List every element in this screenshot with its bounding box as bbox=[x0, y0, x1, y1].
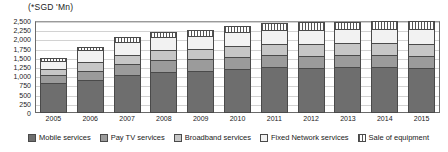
x-axis-tick-label: 2015 bbox=[414, 115, 430, 123]
bar-stack[interactable] bbox=[150, 32, 177, 113]
bar-segment[interactable] bbox=[408, 56, 435, 67]
bar-segment[interactable] bbox=[298, 22, 325, 29]
legend-item[interactable]: Mobile services bbox=[28, 134, 91, 142]
x-axis-tick-label: 2013 bbox=[340, 115, 356, 123]
y-axis-tick-label: 1,000 bbox=[13, 73, 31, 80]
bar-segment[interactable] bbox=[77, 62, 104, 70]
bar-stack[interactable] bbox=[77, 47, 104, 113]
legend-item-label: Sale of equipment bbox=[369, 134, 429, 142]
bar-segment[interactable] bbox=[224, 32, 251, 46]
x-axis-tick-label: 2008 bbox=[156, 115, 172, 123]
bar-segment[interactable] bbox=[187, 30, 214, 36]
legend-item[interactable]: Broadband services bbox=[174, 134, 251, 142]
y-axis-tick-label: 0 bbox=[27, 110, 31, 117]
bar-segment[interactable] bbox=[150, 37, 177, 50]
chart-legend: Mobile servicesPay TV servicesBroadband … bbox=[28, 131, 444, 145]
bar-stack[interactable] bbox=[261, 23, 288, 113]
bar-segment[interactable] bbox=[114, 42, 141, 55]
bar-segment[interactable] bbox=[114, 75, 141, 113]
bar-segment[interactable] bbox=[187, 59, 214, 71]
bar-stack[interactable] bbox=[298, 22, 325, 113]
bar-stack[interactable] bbox=[224, 26, 251, 113]
bar-segment[interactable] bbox=[261, 44, 288, 55]
bar-segment[interactable] bbox=[224, 26, 251, 32]
bar-stack[interactable] bbox=[187, 30, 214, 113]
y-axis-tick-label: 1,250 bbox=[13, 64, 31, 71]
bar-segment[interactable] bbox=[371, 67, 398, 113]
bar-segment[interactable] bbox=[150, 32, 177, 37]
y-axis-tick-label: 1,500 bbox=[13, 54, 31, 61]
legend-item[interactable]: Pay TV services bbox=[100, 134, 165, 142]
bar-segment[interactable] bbox=[40, 61, 67, 69]
bar-segment[interactable] bbox=[334, 29, 361, 43]
bar-segment[interactable] bbox=[261, 55, 288, 68]
legend-swatch-icon bbox=[358, 134, 366, 142]
bar-segment[interactable] bbox=[298, 68, 325, 113]
x-axis-tick-label: 2005 bbox=[46, 115, 62, 123]
bar-stack[interactable] bbox=[371, 21, 398, 113]
bar-segment[interactable] bbox=[187, 71, 214, 113]
x-axis-tick-label: 2011 bbox=[267, 115, 282, 123]
bar-segment[interactable] bbox=[150, 60, 177, 72]
bar-segment[interactable] bbox=[150, 50, 177, 60]
bar-segment[interactable] bbox=[77, 47, 104, 51]
bar-segment[interactable] bbox=[371, 55, 398, 67]
bar-segment[interactable] bbox=[334, 43, 361, 55]
bar-segment[interactable] bbox=[150, 72, 177, 113]
bar-segment[interactable] bbox=[187, 36, 214, 49]
y-axis: 02505007501,0001,2501,5001,7502,0002,250… bbox=[0, 21, 33, 113]
legend-item[interactable]: Fixed Network services bbox=[260, 134, 349, 142]
bar-segment[interactable] bbox=[298, 44, 325, 55]
bar-segment[interactable] bbox=[371, 21, 398, 29]
bar-segment[interactable] bbox=[224, 57, 251, 70]
bar-segment[interactable] bbox=[114, 37, 141, 42]
legend-item-label: Broadband services bbox=[185, 134, 251, 142]
y-axis-tick-label: 2,500 bbox=[13, 18, 31, 25]
legend-swatch-icon bbox=[174, 134, 182, 142]
bar-segment[interactable] bbox=[298, 56, 325, 68]
bar-segment[interactable] bbox=[40, 69, 67, 75]
legend-item[interactable]: Sale of equipment bbox=[358, 134, 429, 142]
bar-stack[interactable] bbox=[114, 37, 141, 113]
x-axis-tick-label: 2012 bbox=[303, 115, 319, 123]
bar-segment[interactable] bbox=[40, 83, 67, 113]
bar-segment[interactable] bbox=[298, 30, 325, 44]
bar-segment[interactable] bbox=[114, 64, 141, 75]
y-axis-tick-label: 2,000 bbox=[13, 36, 31, 43]
bar-segment[interactable] bbox=[224, 46, 251, 57]
bar-segment[interactable] bbox=[261, 30, 288, 44]
bar-segment[interactable] bbox=[77, 50, 104, 62]
legend-item-label: Mobile services bbox=[39, 134, 91, 142]
bar-segment[interactable] bbox=[40, 75, 67, 82]
bar-segment[interactable] bbox=[371, 29, 398, 43]
bar-segment[interactable] bbox=[224, 69, 251, 113]
legend-swatch-icon bbox=[260, 134, 268, 142]
bar-segment[interactable] bbox=[261, 67, 288, 113]
bar-segment[interactable] bbox=[334, 22, 361, 29]
x-axis-tick-label: 2007 bbox=[119, 115, 135, 123]
bar-segment[interactable] bbox=[77, 80, 104, 113]
y-axis-tick-label: 250 bbox=[19, 100, 31, 107]
bar-segment[interactable] bbox=[40, 58, 67, 61]
bar-segment[interactable] bbox=[371, 43, 398, 55]
bar-segment[interactable] bbox=[408, 21, 435, 29]
bar-segment[interactable] bbox=[187, 49, 214, 59]
bar-segment[interactable] bbox=[334, 55, 361, 67]
legend-item-label: Fixed Network services bbox=[271, 134, 349, 142]
bar-stack[interactable] bbox=[334, 22, 361, 113]
bar-segment[interactable] bbox=[114, 55, 141, 64]
bar-segment[interactable] bbox=[261, 23, 288, 30]
bar-segment[interactable] bbox=[334, 67, 361, 113]
bar-segment[interactable] bbox=[408, 44, 435, 57]
legend-swatch-icon bbox=[100, 134, 108, 142]
bar-stack[interactable] bbox=[40, 58, 67, 113]
x-axis-tick-label: 2006 bbox=[82, 115, 98, 123]
y-axis-tick-label: 2,250 bbox=[13, 27, 31, 34]
bar-segment[interactable] bbox=[77, 71, 104, 80]
bar-stack[interactable] bbox=[408, 21, 435, 113]
x-axis-tick-label: 2010 bbox=[230, 115, 246, 123]
bar-segment[interactable] bbox=[408, 29, 435, 43]
x-axis: 2005200620072008200920102011201220132014… bbox=[35, 114, 440, 126]
bar-segment[interactable] bbox=[408, 68, 435, 113]
bar-group bbox=[35, 21, 440, 113]
